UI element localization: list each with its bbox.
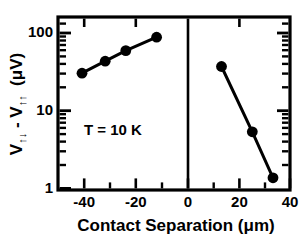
y-title-v1-subscript: ↑↓ — [16, 133, 28, 144]
data-point — [100, 56, 111, 67]
y-tick-label: 10 — [36, 101, 53, 118]
plot-frame — [58, 17, 290, 190]
data-point — [216, 61, 227, 72]
x-axis-title-text: Contact Separation (μm) — [77, 216, 274, 235]
y-tick-label: 100 — [28, 23, 53, 40]
temperature-annotation: T = 10 K — [84, 121, 142, 138]
data-point — [247, 126, 258, 137]
data-point — [151, 32, 162, 43]
figure-panel: 100 10 1 -40 -20 0 20 40 T = 10 K Contac… — [0, 0, 308, 242]
y-axis-title-text: V↑↓ - V↑↑ (μV) — [7, 53, 28, 155]
y-tick-label: 1 — [45, 179, 53, 196]
x-tick-label: -20 — [125, 193, 147, 210]
x-axis-title: Contact Separation (μm) — [77, 216, 274, 235]
data-point — [120, 45, 131, 56]
axes-border — [58, 17, 290, 190]
x-tick-label: 40 — [282, 193, 299, 210]
x-tick-label: 20 — [231, 193, 248, 210]
x-tick-label: -40 — [73, 193, 95, 210]
y-title-v1: V — [7, 143, 26, 155]
y-tick-labels: 100 10 1 — [28, 23, 53, 196]
data-point — [268, 172, 279, 183]
y-title-units: (μV) — [7, 53, 26, 86]
data-point — [77, 68, 88, 79]
x-tick-labels: -40 -20 0 20 40 — [73, 193, 298, 210]
temperature-annotation-text: T = 10 K — [84, 121, 142, 138]
x-tick-label: 0 — [184, 193, 192, 210]
scientific-plot: 100 10 1 -40 -20 0 20 40 T = 10 K Contac… — [0, 0, 308, 242]
y-title-v2: V — [7, 106, 26, 118]
y-title-v2-subscript: ↑↑ — [16, 95, 28, 106]
y-axis-title: V↑↓ - V↑↑ (μV) — [7, 53, 28, 155]
